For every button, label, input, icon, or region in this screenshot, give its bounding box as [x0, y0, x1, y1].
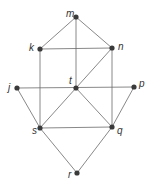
node-r [74, 170, 79, 175]
node-label-p: p [138, 78, 145, 89]
edge-m-k [40, 17, 76, 49]
node-p [131, 84, 136, 89]
edge-j-s [17, 88, 40, 128]
node-s [37, 125, 42, 130]
edge-s-r [40, 128, 77, 173]
edge-m-n [76, 17, 112, 48]
node-label-j: j [6, 82, 11, 93]
node-label-t: t [69, 75, 73, 86]
edge-n-t [76, 48, 112, 88]
edge-k-n [40, 48, 112, 49]
graph-diagram: mknjtpsqr [0, 0, 149, 184]
edge-s-q [40, 127, 112, 128]
node-label-r: r [68, 169, 72, 180]
edges-group [17, 17, 134, 173]
node-q [109, 124, 114, 129]
labels-group: mknjtpsqr [6, 8, 145, 180]
node-t [73, 85, 78, 90]
nodes-group [14, 14, 136, 175]
node-label-q: q [117, 125, 123, 136]
edge-q-r [77, 127, 112, 173]
edge-t-q [76, 88, 112, 127]
node-label-k: k [29, 42, 35, 53]
node-label-n: n [118, 41, 124, 52]
node-j [14, 85, 19, 90]
edge-t-s [40, 88, 76, 128]
node-n [109, 45, 114, 50]
node-label-m: m [66, 8, 74, 19]
node-label-s: s [32, 125, 37, 136]
graph-canvas: mknjtpsqr [0, 0, 149, 184]
node-k [37, 46, 42, 51]
edge-p-q [112, 87, 134, 127]
